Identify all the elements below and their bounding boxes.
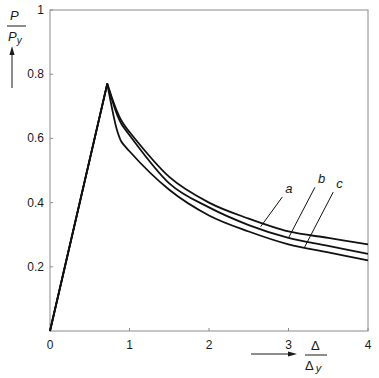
x-tick-label: 4 (365, 338, 372, 352)
curves (50, 84, 368, 331)
load-displacement-chart: 012340.20.40.60.81 abc P Py Δ Δy (0, 0, 379, 378)
arrow-right-icon (288, 352, 297, 357)
y-tick-label: 0.2 (27, 260, 44, 274)
y-tick-label: 0.4 (27, 196, 44, 210)
x-tick-label: 2 (206, 338, 213, 352)
y-tick-label: 1 (37, 3, 44, 17)
x-label-numerator: Δ (311, 338, 320, 353)
y-tick-label: 0.8 (27, 67, 44, 81)
x-label-denominator: Δy (305, 358, 323, 374)
curve-label-c: c (336, 176, 343, 191)
x-tick-label: 3 (285, 338, 292, 352)
leader-line-c (304, 192, 333, 247)
x-tick-label: 1 (126, 338, 133, 352)
curve-label-b: b (318, 171, 325, 186)
leader-line-a (261, 197, 283, 227)
curve-label-a: a (285, 181, 292, 196)
y-label-denominator: Py (8, 29, 23, 46)
y-axis-label: P Py (7, 8, 26, 88)
curve-b (50, 84, 368, 331)
arrow-up-icon (10, 46, 15, 55)
y-label-numerator: P (10, 8, 19, 23)
x-tick-label: 0 (47, 338, 54, 352)
y-tick-label: 0.6 (27, 131, 44, 145)
curve-labels: abc (261, 171, 344, 247)
